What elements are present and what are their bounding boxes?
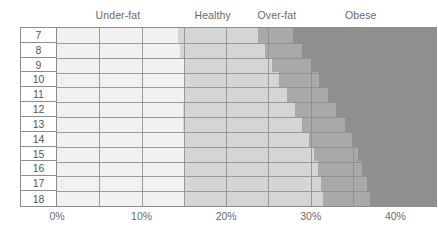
age-row-label: 15: [21, 147, 56, 162]
x-axis-tick-label: 40%: [385, 210, 406, 222]
stacked-bar-row: [57, 58, 436, 73]
stacked-bar-row: [57, 161, 436, 176]
band-label-obese: Obese: [345, 9, 376, 21]
bar-segment-over-fat: [258, 28, 293, 43]
stacked-bar-row: [57, 28, 436, 43]
x-axis-tick-label: 0%: [49, 210, 64, 222]
bar-segment-over-fat: [323, 191, 370, 206]
stacked-bar-row: [57, 176, 436, 191]
bar-segment-healthy: [184, 87, 287, 102]
horizontal-gridline: [57, 132, 436, 133]
bar-segment-healthy: [178, 28, 258, 43]
bar-segment-under-fat: [57, 132, 184, 147]
stacked-bars-area: [57, 28, 436, 206]
bar-segment-under-fat: [57, 176, 184, 191]
band-label-under-fat: Under-fat: [96, 9, 141, 21]
x-axis-tick-label: 10%: [131, 210, 152, 222]
age-axis-column: 789101112131415161718: [21, 28, 57, 206]
bar-segment-over-fat: [295, 102, 336, 117]
bar-segment-obese: [311, 58, 436, 73]
bar-segment-healthy: [184, 132, 309, 147]
x-axis-tick-label: 30%: [300, 210, 321, 222]
bar-segment-over-fat: [272, 58, 311, 73]
bar-segment-healthy: [184, 176, 321, 191]
horizontal-gridline: [57, 102, 436, 103]
age-row-label: 12: [21, 102, 56, 117]
horizontal-gridline: [57, 176, 436, 177]
bar-segment-obese: [293, 28, 436, 43]
bar-segment-under-fat: [57, 28, 178, 43]
horizontal-gridline: [57, 43, 436, 44]
bar-segment-over-fat: [309, 132, 352, 147]
bar-segment-under-fat: [57, 191, 185, 206]
plot-frame: 789101112131415161718: [20, 27, 437, 207]
horizontal-gridline: [57, 147, 436, 148]
bar-segment-over-fat: [321, 176, 367, 191]
bar-segment-under-fat: [57, 43, 180, 58]
age-row-label: 7: [21, 28, 56, 43]
bar-segment-obese: [328, 87, 436, 102]
bar-segment-healthy: [183, 102, 295, 117]
bar-segment-obese: [345, 117, 436, 132]
bar-segment-over-fat: [279, 72, 319, 87]
bar-segment-obese: [358, 147, 436, 162]
x-axis-tick-label: 20%: [216, 210, 237, 222]
bar-segment-over-fat: [314, 147, 358, 162]
stacked-bar-row: [57, 102, 436, 117]
horizontal-gridline: [57, 162, 436, 163]
stacked-bar-row: [57, 87, 436, 102]
band-label-over-fat: Over-fat: [258, 9, 297, 21]
horizontal-gridline: [57, 73, 436, 74]
bar-segment-obese: [362, 161, 436, 176]
bar-segment-over-fat: [302, 117, 344, 132]
bar-segment-under-fat: [57, 161, 184, 176]
bar-segment-healthy: [184, 58, 272, 73]
stacked-bar-row: [57, 117, 436, 132]
age-row-label: 8: [21, 43, 56, 58]
bar-segment-over-fat: [287, 87, 328, 102]
stacked-bar-row: [57, 43, 436, 58]
bar-segment-healthy: [184, 147, 314, 162]
age-row-label: 17: [21, 176, 56, 191]
bar-segment-obese: [352, 132, 436, 147]
bar-segment-obese: [302, 43, 436, 58]
age-row-label: 13: [21, 117, 56, 132]
bar-segment-under-fat: [57, 147, 184, 162]
horizontal-gridline: [57, 58, 436, 59]
bar-segment-under-fat: [57, 87, 184, 102]
age-row-label: 10: [21, 72, 56, 87]
bar-segment-obese: [367, 176, 436, 191]
stacked-bar-row: [57, 72, 436, 87]
age-row-label: 14: [21, 132, 56, 147]
age-row-label: 9: [21, 58, 56, 73]
horizontal-gridline: [57, 87, 436, 88]
bar-segment-over-fat: [318, 161, 363, 176]
bar-segment-healthy: [180, 43, 265, 58]
bar-segment-healthy: [183, 117, 302, 132]
bar-segment-obese: [336, 102, 436, 117]
bar-segment-under-fat: [57, 102, 183, 117]
bar-segment-under-fat: [57, 117, 183, 132]
bar-segment-healthy: [185, 191, 324, 206]
stacked-bar-row: [57, 147, 436, 162]
band-label-healthy: Healthy: [195, 9, 231, 21]
bar-segment-obese: [370, 191, 436, 206]
horizontal-gridline: [57, 191, 436, 192]
bar-segment-obese: [319, 72, 436, 87]
bar-segment-healthy: [184, 161, 318, 176]
bar-segment-under-fat: [57, 58, 184, 73]
stacked-bar-row: [57, 191, 436, 206]
bar-segment-under-fat: [57, 72, 184, 87]
stacked-bar-row: [57, 132, 436, 147]
bar-segment-over-fat: [265, 43, 302, 58]
age-row-label: 11: [21, 87, 56, 102]
body-fat-reference-chart: Under-fatHealthyOver-fatObese 7891011121…: [0, 0, 438, 232]
horizontal-gridline: [57, 117, 436, 118]
age-row-label: 18: [21, 191, 56, 206]
age-row-label: 16: [21, 161, 56, 176]
bar-segment-healthy: [184, 72, 280, 87]
